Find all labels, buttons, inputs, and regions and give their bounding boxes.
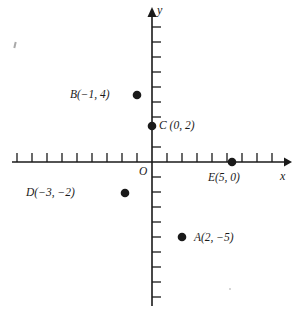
x-axis-ticks-positive <box>167 153 272 162</box>
y-axis <box>148 7 157 306</box>
point-marker-a <box>178 233 187 242</box>
faint-speck-icon <box>229 288 231 290</box>
x-axis-label: x <box>280 170 285 182</box>
x-axis-arrowhead <box>284 158 292 167</box>
y-axis-label: y <box>157 4 162 16</box>
point-marker-c <box>148 122 157 131</box>
x-axis-ticks-negative <box>17 153 137 162</box>
origin-label: O <box>139 166 147 178</box>
axes-and-points-canvas <box>0 0 297 312</box>
y-axis-ticks-negative <box>152 177 161 297</box>
coordinate-plane-figure: B(−1, 4) C (0, 2) D(−3, −2) A(2, −5) E(5… <box>0 0 297 312</box>
point-label-d: D(−3, −2) <box>26 187 75 199</box>
y-axis-arrowhead <box>148 7 157 17</box>
point-label-b: B(−1, 4) <box>70 89 110 101</box>
point-label-e: E(5, 0) <box>208 172 240 184</box>
point-marker-b <box>133 91 142 100</box>
point-marker-d <box>121 189 130 198</box>
point-marker-e <box>228 158 237 167</box>
point-label-c: C (0, 2) <box>159 120 194 132</box>
point-label-a: A(2, −5) <box>194 232 234 244</box>
